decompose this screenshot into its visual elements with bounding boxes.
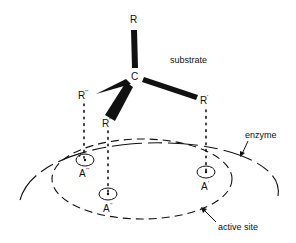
binding-site-a-prime	[197, 166, 215, 178]
bond-c-r	[131, 30, 138, 68]
site-label-a-double: A	[103, 203, 110, 214]
enzyme-substrate-diagram: R C R ' R ''' R '' A ''' A '' A ' substr…	[0, 0, 296, 243]
prime-mark-a-triple: '''	[86, 167, 89, 173]
site-label-a-prime: A	[201, 181, 208, 192]
active-site-leader-arrow	[201, 207, 216, 222]
substrate-label: substrate	[170, 55, 207, 65]
binding-site-a-triple	[76, 154, 94, 166]
enzyme-leader-arrow	[240, 141, 248, 157]
bond-c-r-prime	[142, 77, 198, 100]
enzyme-outline	[20, 143, 278, 200]
atom-label-r: R	[130, 14, 137, 25]
prime-mark-r-double: ''	[109, 117, 111, 123]
prime-mark-a-double: ''	[110, 202, 112, 208]
prime-mark-a-prime: '	[208, 180, 209, 186]
active-site-outline	[52, 139, 232, 219]
enzyme-label: enzyme	[245, 130, 277, 140]
active-site-label: active site	[218, 222, 258, 232]
prime-mark-r-prime: '	[207, 94, 208, 100]
site-label-a-triple: A	[79, 168, 86, 179]
prime-mark-r-triple: '''	[85, 89, 88, 95]
atom-label-c: C	[131, 71, 138, 82]
